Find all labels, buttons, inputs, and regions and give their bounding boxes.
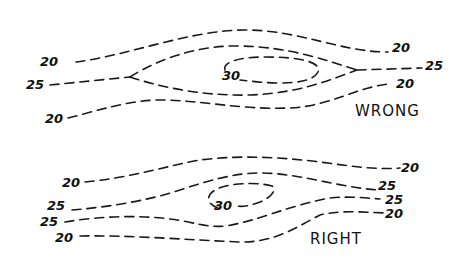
wrong-contour-25-left-tail (50, 77, 130, 85)
right-label-20-bottom-right: 20 (385, 206, 403, 221)
wrong-contour-25-right-tail (357, 68, 422, 70)
wrong-caption: WRONG (355, 102, 420, 120)
wrong-label-30: 30 (222, 68, 240, 83)
wrong-contour-25-lower-branch (130, 70, 357, 95)
right-label-25-upper-right: 25 (378, 178, 396, 193)
contour-diagram: 20 20 25 25 20 20 30 WRONG 20 20 25 25 2… (0, 0, 473, 275)
wrong-panel: 20 20 25 25 20 20 30 WRONG (26, 30, 443, 126)
wrong-label-25-right: 25 (425, 58, 443, 73)
right-label-25-upper-left: 25 (47, 198, 65, 213)
wrong-contour-20-bottom (68, 84, 388, 118)
right-label-20-top-left: 20 (62, 175, 80, 190)
right-label-20-bottom-left: 20 (55, 230, 73, 245)
wrong-label-25-left: 25 (26, 77, 44, 92)
right-label-25-lower-right: 25 (385, 192, 403, 207)
wrong-label-20-top-left: 20 (40, 54, 58, 69)
right-panel: 20 20 25 25 25 25 20 20 30 RIGHT (40, 157, 419, 248)
right-caption: RIGHT (310, 230, 362, 248)
wrong-contour-25-upper-branch (130, 46, 357, 77)
wrong-label-20-top-right: 20 (392, 40, 410, 55)
wrong-label-20-bottom-right: 20 (396, 76, 414, 91)
right-label-25-lower-left: 25 (40, 214, 58, 229)
right-label-30: 30 (214, 198, 232, 213)
right-label-20-top-right: 20 (401, 160, 419, 175)
right-contour-20-top (85, 157, 400, 182)
wrong-label-20-bottom-left: 20 (45, 111, 63, 126)
